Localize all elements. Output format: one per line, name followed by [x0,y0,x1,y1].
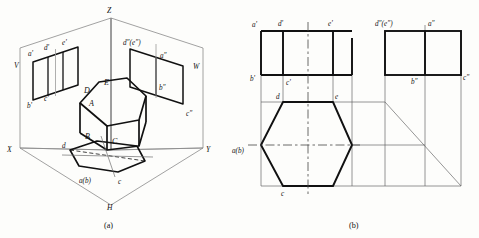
front-view-outline [261,31,352,75]
panel-b-caption: (b) [349,221,359,230]
v-label-c-prime: c' [44,95,49,103]
side-view-outline [385,31,461,75]
front-label-e-prime: e' [328,20,333,28]
miter-line-45 [385,102,461,186]
plane-label-v: V [14,61,20,70]
plane-label-h: H [106,203,113,212]
axis-label-y: Y [206,145,211,154]
h-plane-outline [20,148,203,205]
top-label-d: d [276,93,280,101]
front-label-a-prime: a' [252,21,258,29]
w-label-de-double-prime: d″(e″) [123,39,141,47]
v-label-b-prime: b' [27,102,33,110]
panel-a-pictorial: Z X Y V W H a' d' e' b' c' d″(e″) a″ b″ … [6,6,211,230]
v-label-a-prime: a' [28,50,34,58]
h-label-d: d [62,142,66,150]
construction-lines [261,25,461,186]
top-view-centerlines [248,22,360,196]
panel-a-caption: (a) [104,221,113,230]
h-label-c: c [118,178,122,186]
engineering-drawing-figure: Z X Y V W H a' d' e' b' c' d″(e″) a″ b″ … [0,0,479,238]
top-label-c: c [281,190,285,198]
side-label-de-double-prime: d″(e″) [375,20,393,28]
plane-label-w: W [193,62,200,71]
w-label-c-double-prime: c″ [186,110,193,118]
solid-label-c: C [112,137,118,146]
top-view [261,102,352,186]
side-label-c-double-prime: c″ [463,74,470,82]
solid-label-b: B [85,132,90,141]
top-label-e: e [335,93,339,101]
panel-b-orthographic: a' d' e' b' c' d″(e″) a″ b″ c″ d e a(b) … [232,20,470,230]
top-view-hexagon [261,102,352,186]
side-label-a-double-prime: a″ [428,20,436,28]
front-view [261,31,352,75]
v-label-d-prime: d' [44,44,50,52]
axis-label-z: Z [107,6,112,15]
w-label-a-double-prime: a″ [160,52,168,60]
top-label-ab: a(b) [232,147,245,155]
solid-label-d: D [83,86,90,95]
w-label-b-double-prime: b″ [159,84,167,92]
w-plane-outline [111,18,203,150]
front-label-b-prime: b' [250,75,256,83]
h-label-ab: a(b) [79,177,92,185]
v-label-e-prime: e' [62,39,67,47]
front-label-c-prime: c' [286,79,291,87]
solid-label-e: E [103,78,109,87]
front-label-d-prime: d' [278,20,284,28]
side-label-b-double-prime: b″ [411,78,419,86]
axis-label-x: X [6,145,12,154]
solid-label-a: A [88,99,94,108]
side-view [385,31,461,75]
